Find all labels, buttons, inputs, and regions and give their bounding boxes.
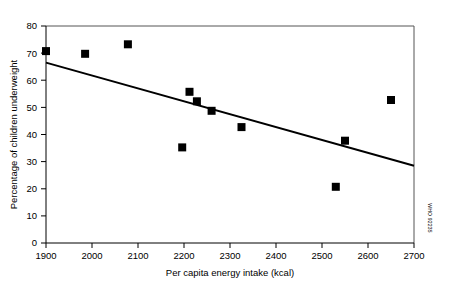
y-tick-label: 80 bbox=[26, 20, 37, 31]
x-tick-label: 2000 bbox=[81, 250, 102, 261]
data-point-marker bbox=[341, 137, 349, 145]
data-point-marker bbox=[81, 50, 89, 58]
data-point-marker bbox=[124, 40, 132, 48]
chart-figure: 0 10 20 30 40 50 60 70 80 1900 2000 210 bbox=[0, 0, 460, 292]
x-tick-label: 2400 bbox=[265, 250, 286, 261]
x-tick-label: 2600 bbox=[357, 250, 378, 261]
data-point-marker bbox=[193, 97, 201, 105]
data-points bbox=[42, 40, 395, 191]
x-axis-ticks bbox=[46, 243, 414, 248]
y-tick-label: 20 bbox=[26, 183, 37, 194]
data-point-marker bbox=[387, 96, 395, 104]
scatter-plot-svg: 0 10 20 30 40 50 60 70 80 1900 2000 210 bbox=[0, 0, 460, 292]
y-axis-tick-labels: 0 10 20 30 40 50 60 70 80 bbox=[26, 20, 37, 248]
x-axis-tick-labels: 1900 2000 2100 2200 2300 2400 2500 2600 … bbox=[35, 250, 424, 261]
data-point-marker bbox=[332, 183, 340, 191]
x-tick-label: 2200 bbox=[173, 250, 194, 261]
data-point-marker bbox=[178, 143, 186, 151]
who-credit-label: WHO 92235 bbox=[427, 203, 433, 232]
y-axis-title: Percentage of children underweight bbox=[8, 59, 19, 209]
y-tick-label: 0 bbox=[32, 237, 37, 248]
y-axis-ticks bbox=[41, 26, 46, 243]
plot-frame bbox=[46, 26, 414, 243]
trend-line bbox=[46, 63, 414, 166]
x-tick-label: 2500 bbox=[311, 250, 332, 261]
data-point-marker bbox=[42, 47, 50, 55]
y-tick-label: 70 bbox=[26, 48, 37, 59]
x-tick-label: 2300 bbox=[219, 250, 240, 261]
y-tick-label: 50 bbox=[26, 102, 37, 113]
y-tick-label: 10 bbox=[26, 210, 37, 221]
x-axis-title: Per capita energy intake (kcal) bbox=[166, 267, 294, 278]
data-point-marker bbox=[238, 123, 246, 131]
x-tick-label: 2100 bbox=[127, 250, 148, 261]
y-tick-label: 60 bbox=[26, 75, 37, 86]
y-tick-label: 40 bbox=[26, 129, 37, 140]
data-point-marker bbox=[208, 107, 216, 115]
x-tick-label: 1900 bbox=[35, 250, 56, 261]
x-tick-label: 2700 bbox=[403, 250, 424, 261]
data-point-marker bbox=[186, 88, 194, 96]
y-tick-label: 30 bbox=[26, 156, 37, 167]
